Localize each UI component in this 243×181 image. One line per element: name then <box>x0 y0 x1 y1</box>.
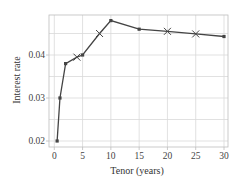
x-tick-label: 15 <box>134 151 144 161</box>
dot-marker <box>64 62 67 65</box>
dot-marker <box>81 53 84 56</box>
y-tick-label: 0.03 <box>28 93 45 103</box>
x-tick-label: 0 <box>52 151 57 161</box>
dot-marker <box>109 19 112 22</box>
x-tick-label: 5 <box>80 151 85 161</box>
x-axis-label: Tenor (years) <box>110 165 163 177</box>
y-axis-label: Interest rate <box>11 56 22 104</box>
dot-marker <box>138 28 141 31</box>
dot-marker <box>222 35 225 38</box>
x-tick-label: 10 <box>106 151 116 161</box>
y-tick-label: 0.04 <box>28 50 45 60</box>
x-tick-label: 20 <box>163 151 173 161</box>
y-tick-label: 0.02 <box>28 136 45 146</box>
y-axis-ticks: 0.020.030.04 <box>28 50 49 146</box>
x-tick-label: 30 <box>219 151 229 161</box>
dot-marker <box>58 96 61 99</box>
dot-marker <box>56 139 59 142</box>
x-tick-label: 25 <box>191 151 201 161</box>
yield-curve-chart: 051015202530 0.020.030.04 Tenor (years) … <box>0 0 243 181</box>
data-markers <box>56 19 226 143</box>
x-axis-ticks: 051015202530 <box>52 147 229 161</box>
yield-curve-line <box>57 21 224 141</box>
